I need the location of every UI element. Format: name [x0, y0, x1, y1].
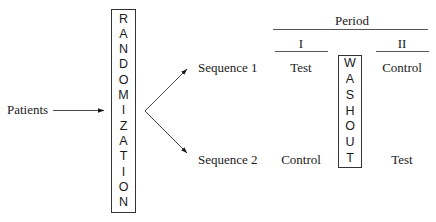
sequence-1-period-2-treatment: Control — [382, 61, 422, 75]
randomization-letters: R A N D O M I Z A T I O N — [118, 12, 128, 211]
randomization-box: R A N D O M I Z A T I O N — [111, 9, 136, 213]
letter: U — [345, 135, 354, 151]
washout-box: W A S H O U T — [338, 55, 362, 168]
sequence-2-period-1-treatment: Control — [281, 153, 321, 167]
letter: I — [122, 165, 125, 180]
period-1-label: I — [299, 37, 303, 51]
letter: Z — [120, 119, 128, 134]
crossover-design-diagram: Patients R A N D O M I Z A T I O N Seque… — [0, 0, 436, 222]
period-1-rule — [275, 51, 328, 52]
connector-arrows — [0, 0, 436, 222]
letter: A — [119, 27, 127, 42]
sequence-2-label: Sequence 2 — [198, 153, 258, 167]
letter: O — [345, 119, 355, 135]
washout-letters: W A S H O U T — [344, 56, 356, 167]
sequence-1-period-1-treatment: Test — [290, 61, 311, 75]
letter: N — [119, 195, 128, 210]
letter: O — [119, 73, 129, 88]
letter: T — [120, 149, 128, 164]
sequence-1-label: Sequence 1 — [198, 61, 258, 75]
letter: A — [346, 72, 354, 88]
letter: D — [119, 57, 128, 72]
period-header-title: Period — [335, 14, 369, 28]
letter: I — [122, 103, 125, 118]
patients-label: Patients — [7, 103, 48, 117]
letter: W — [344, 56, 356, 72]
letter: H — [345, 104, 354, 120]
letter: M — [118, 88, 128, 103]
period-header-rule — [273, 29, 428, 30]
letter: S — [346, 88, 354, 104]
arrow-to-sequence-1 — [145, 69, 187, 111]
letter: A — [119, 134, 127, 149]
arrow-to-sequence-2 — [145, 111, 187, 153]
letter: T — [346, 151, 354, 167]
letter: R — [119, 12, 128, 27]
sequence-2-period-2-treatment: Test — [391, 153, 412, 167]
letter: N — [119, 42, 128, 57]
period-2-rule — [376, 51, 429, 52]
letter: O — [119, 180, 129, 195]
period-2-label: II — [398, 37, 407, 51]
